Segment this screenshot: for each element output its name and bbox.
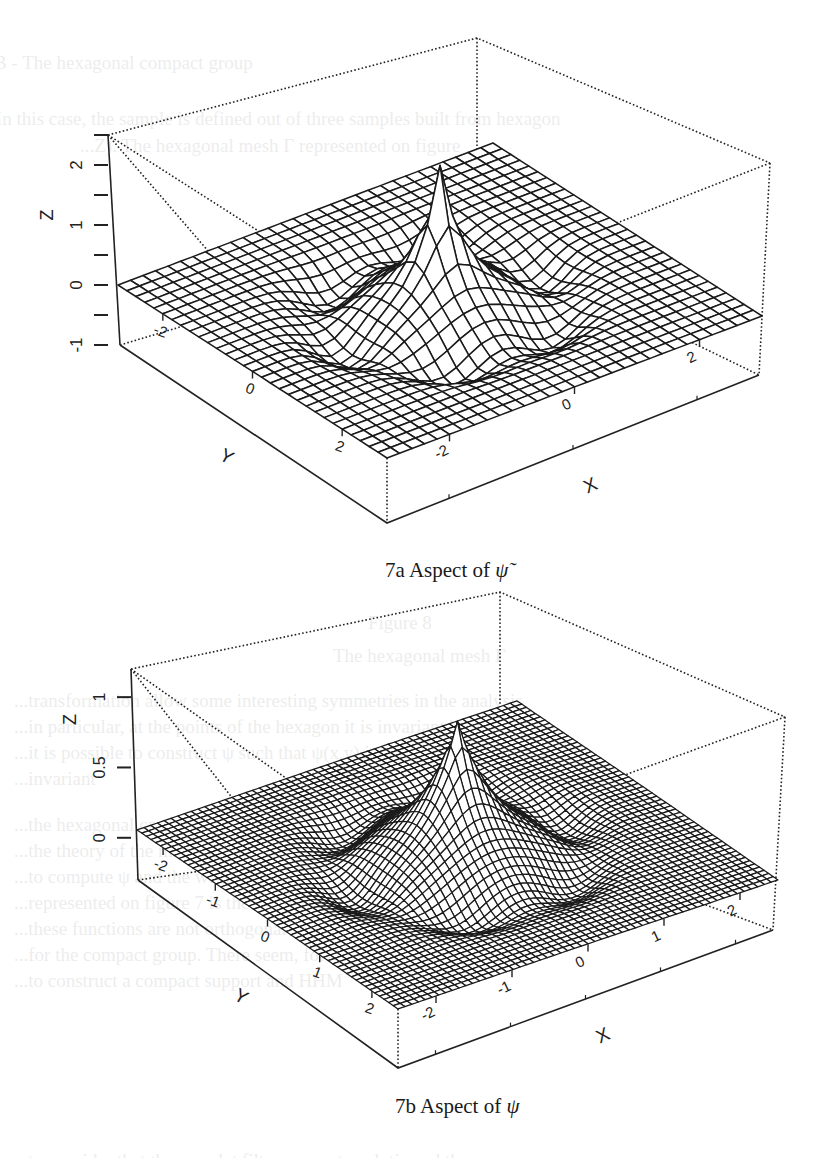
y-tick-label: -1 [204, 890, 222, 911]
y-tick-label: 0 [259, 927, 273, 946]
psi-symbol: ψ [506, 1094, 519, 1118]
x-tick-label: 0 [572, 952, 587, 971]
x-tick-label: 2 [724, 900, 739, 919]
x-axis-label: X [593, 1023, 614, 1048]
box-top-back-edges [131, 592, 785, 717]
z-tick-label: 0.5 [91, 756, 108, 778]
psi-tilde-symbol: ψ̃ [495, 558, 508, 582]
x-tick-label: -2 [418, 1003, 437, 1024]
z-axis-line [131, 669, 138, 880]
z-tick-label: 0 [91, 833, 108, 842]
y-tick-label: 2 [363, 999, 377, 1018]
y-tick-label: -2 [152, 854, 170, 875]
figure-caption-7a: 7a Aspect of ψ̃ [385, 558, 508, 583]
z-tick-label: 1 [91, 693, 108, 702]
y-axis-label: Y [231, 984, 253, 1009]
figure-caption-7b: 7b Aspect of ψ [395, 1094, 519, 1119]
x-tick-label: -1 [494, 977, 513, 998]
caption-text: 7b Aspect of [395, 1094, 506, 1118]
y-tick-label: 1 [311, 963, 325, 982]
caption-text: 7a Aspect of [385, 558, 495, 582]
box-right-vertical [773, 717, 785, 930]
x-tick-label: 1 [648, 926, 663, 945]
z-axis-label: Z [60, 714, 80, 725]
